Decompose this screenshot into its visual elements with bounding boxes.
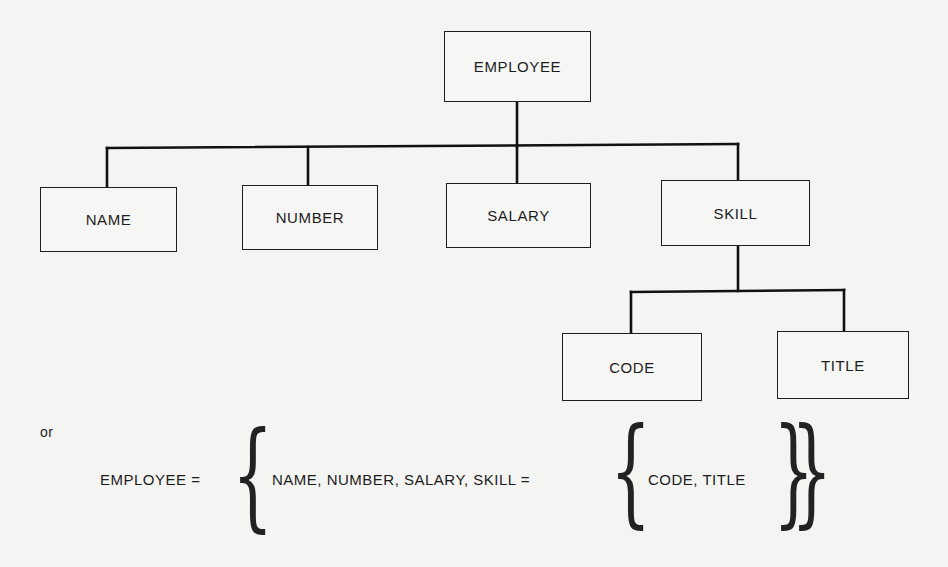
open-brace-outer: { <box>232 416 273 534</box>
node-title: TITLE <box>777 331 909 399</box>
node-title-label: TITLE <box>821 357 865 374</box>
formula-inner-set: CODE, TITLE <box>648 471 746 488</box>
node-salary: SALARY <box>446 183 591 248</box>
diagram-canvas: EMPLOYEE NAME NUMBER SALARY SKILL CODE T… <box>0 0 948 567</box>
node-name-label: NAME <box>86 211 132 228</box>
or-label: or <box>40 424 53 440</box>
node-skill-label: SKILL <box>714 205 758 222</box>
node-employee: EMPLOYEE <box>444 31 591 102</box>
formula-inner-lhs: NAME, NUMBER, SALARY, SKILL = <box>272 471 530 488</box>
node-salary-label: SALARY <box>487 207 550 224</box>
node-code: CODE <box>562 333 702 401</box>
node-number: NUMBER <box>242 185 378 250</box>
node-employee-label: EMPLOYEE <box>474 58 561 75</box>
close-brace-outer: } <box>791 412 832 530</box>
node-number-label: NUMBER <box>276 209 345 226</box>
formula-lhs: EMPLOYEE = <box>100 471 200 488</box>
connector-skill-bus <box>631 290 844 292</box>
connector-main-bus <box>107 144 738 148</box>
open-brace-inner: { <box>610 412 651 530</box>
node-code-label: CODE <box>609 359 655 376</box>
node-skill: SKILL <box>661 180 810 246</box>
node-name: NAME <box>40 187 177 252</box>
